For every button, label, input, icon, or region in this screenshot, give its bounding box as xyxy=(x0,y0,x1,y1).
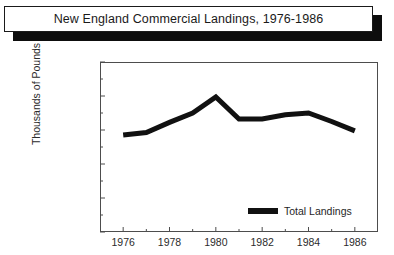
legend-swatch-total-landings xyxy=(248,208,278,214)
data-series-line xyxy=(123,97,355,135)
chart-plot-area: Thousands of Pounds 02000004000006000008… xyxy=(0,0,394,255)
chart-legend: Total Landings xyxy=(248,205,352,217)
legend-label-total-landings: Total Landings xyxy=(284,205,352,217)
